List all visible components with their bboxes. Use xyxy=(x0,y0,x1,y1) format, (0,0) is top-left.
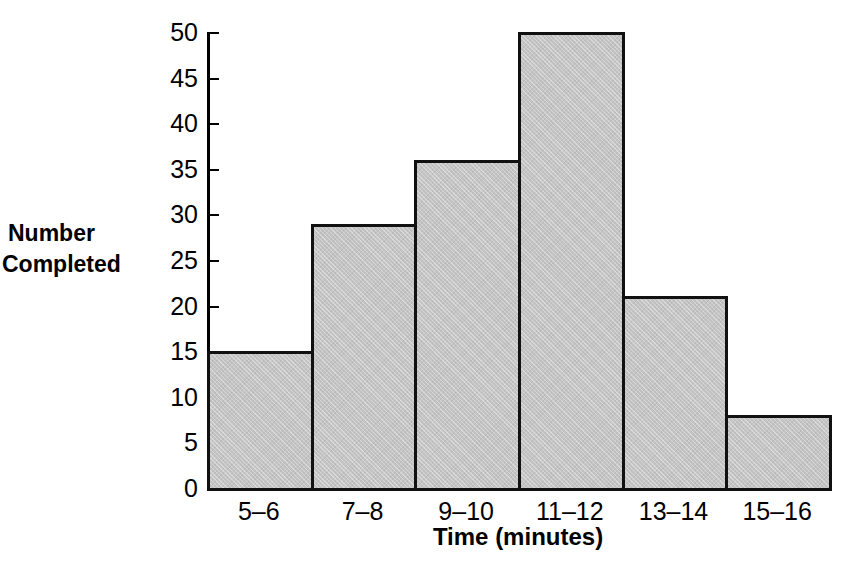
x-axis-label: Time (minutes) xyxy=(207,523,829,551)
y-tick-label: 50 xyxy=(170,20,198,45)
y-tick-mark xyxy=(210,214,219,216)
bar xyxy=(518,32,625,491)
y-tick-label: 0 xyxy=(184,476,198,501)
x-category-label: 9–10 xyxy=(438,498,494,525)
x-category-label: 15–16 xyxy=(742,498,812,525)
histogram-figure: Number Completed 05101520253035404550 5–… xyxy=(0,0,855,568)
y-tick-label: 45 xyxy=(170,65,198,90)
y-axis-label-line-1: Number xyxy=(8,218,158,249)
y-tick-label: 35 xyxy=(170,156,198,181)
bar xyxy=(725,415,832,491)
y-tick-mark xyxy=(210,306,219,308)
y-tick-mark xyxy=(210,78,219,80)
x-category-label: 5–6 xyxy=(238,498,280,525)
bar xyxy=(311,224,418,491)
plot-area: 05101520253035404550 5–67–89–1011–1213–1… xyxy=(207,30,829,490)
y-axis-label: Number Completed xyxy=(8,218,158,280)
y-tick-label: 25 xyxy=(170,248,198,273)
y-tick-label: 20 xyxy=(170,293,198,318)
x-category-label: 7–8 xyxy=(342,498,384,525)
y-tick-label: 5 xyxy=(184,430,198,455)
y-tick-mark xyxy=(210,32,219,34)
y-tick-label: 40 xyxy=(170,111,198,136)
y-tick-label: 10 xyxy=(170,384,198,409)
y-tick-mark xyxy=(210,169,219,171)
y-tick-label: 30 xyxy=(170,202,198,227)
x-category-label: 11–12 xyxy=(536,498,604,525)
x-category-label: 13–14 xyxy=(639,498,709,525)
bar xyxy=(207,351,314,491)
y-tick-mark xyxy=(210,123,219,125)
y-tick-label: 15 xyxy=(170,339,198,364)
bar xyxy=(414,160,521,491)
bar xyxy=(622,296,729,491)
y-axis-label-line-2: Completed xyxy=(2,249,158,280)
y-tick-mark xyxy=(210,260,219,262)
